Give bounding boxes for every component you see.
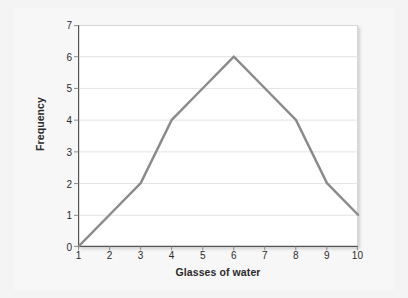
chart-figure: Frequency 7 6 5 4 3 2 1 0 (0, 0, 408, 298)
axis-spines (79, 25, 358, 246)
x-tick-label-9: 9 (317, 250, 337, 261)
y-tick-label-2: 2 (56, 179, 72, 190)
y-tick-label-6: 6 (56, 52, 72, 63)
y-axis-title: Frequency (34, 74, 46, 174)
y-tick-label-1: 1 (56, 210, 72, 221)
x-tick-label-5: 5 (193, 250, 213, 261)
x-tick-label-3: 3 (131, 250, 151, 261)
x-tick-label-4: 4 (162, 250, 182, 261)
x-tick-label-8: 8 (286, 250, 306, 261)
x-tick-label-6: 6 (224, 250, 244, 261)
chart-canvas (78, 25, 358, 247)
x-axis-title: Glasses of water (78, 266, 358, 278)
x-tick-label-2: 2 (100, 250, 120, 261)
y-tick-label-5: 5 (56, 83, 72, 94)
y-tick-label-7: 7 (56, 20, 72, 31)
y-tick-label-4: 4 (56, 115, 72, 126)
x-tick-label-1: 1 (69, 250, 89, 261)
y-tick-label-3: 3 (56, 147, 72, 158)
x-tick-label-10: 10 (347, 250, 367, 261)
x-tick-label-7: 7 (255, 250, 275, 261)
